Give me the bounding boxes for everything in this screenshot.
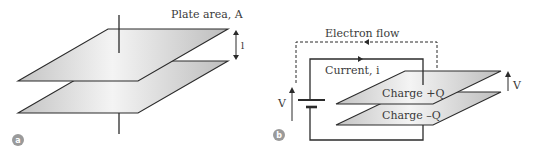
plate-voltage-arrow-icon xyxy=(505,71,511,91)
current-arrow-icon xyxy=(358,56,363,62)
svg-text:a: a xyxy=(15,136,20,145)
panel-b: Electron flow Current, i Charge +Q Charg… xyxy=(273,27,522,141)
plate-area-label: Plate area, A xyxy=(171,8,244,21)
battery-voltage-arrow-icon xyxy=(289,87,295,121)
plate-voltage-label: V xyxy=(512,79,522,92)
bottom-plate-charge-label: Charge –Q xyxy=(382,109,441,122)
battery-voltage-label: V xyxy=(277,97,287,110)
badge-b: b xyxy=(273,129,285,141)
capacitor-diagram: Plate area, A l a Electron flow xyxy=(0,0,533,161)
top-plate-charge-label: Charge +Q xyxy=(382,87,445,100)
separation-label: l xyxy=(241,40,244,51)
panel-a: Plate area, A l a xyxy=(12,8,244,146)
separation-arrow-icon xyxy=(233,30,239,60)
svg-text:b: b xyxy=(276,131,282,140)
badge-a: a xyxy=(12,134,24,146)
current-label: Current, i xyxy=(325,64,380,77)
battery-icon xyxy=(298,100,325,107)
electron-flow-label: Electron flow xyxy=(325,27,400,40)
